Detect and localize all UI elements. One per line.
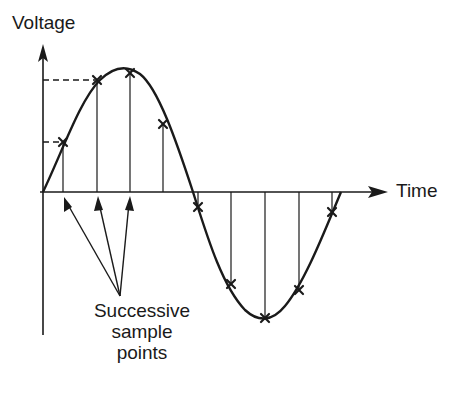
annotation-arrows <box>67 203 129 296</box>
x-axis-label: Time <box>396 180 438 202</box>
sine-sampling-diagram: Voltage Time Successive sample points <box>0 0 453 393</box>
annotation-arrowheads <box>64 196 134 212</box>
arrowhead-icon <box>125 196 134 211</box>
arrowhead-icon <box>94 196 103 211</box>
annotation-label: Successive sample points <box>72 300 212 363</box>
annotation-line-2: sample <box>72 321 212 342</box>
annotation-line-1: Successive <box>72 300 212 321</box>
sine-wave-curve <box>43 68 341 318</box>
annotation-line-3: points <box>72 342 212 363</box>
diagram-canvas <box>0 0 453 393</box>
y-axis-label: Voltage <box>12 12 75 34</box>
sample-lines <box>63 73 332 318</box>
